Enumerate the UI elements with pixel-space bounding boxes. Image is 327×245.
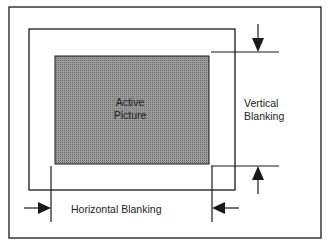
vblank-label-line1: Vertical [244, 97, 284, 110]
active-picture-label: Active Picture [100, 96, 160, 122]
vblank-label-line2: Blanking [244, 110, 284, 123]
arrow-right-icon [38, 202, 51, 214]
horizontal-blanking-label: Horizontal Blanking [71, 203, 161, 216]
arrow-up-icon [252, 166, 264, 180]
active-label-line1: Active [100, 96, 160, 109]
arrow-left-icon [212, 202, 225, 214]
vertical-blanking-label: Vertical Blanking [244, 97, 284, 123]
active-label-line2: Picture [100, 109, 160, 122]
arrow-down-icon [252, 38, 264, 52]
